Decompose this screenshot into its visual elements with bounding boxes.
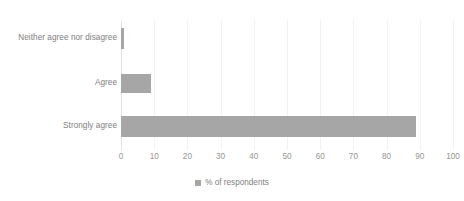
chart-legend: % of respondents bbox=[0, 178, 464, 187]
legend-label: % of respondents bbox=[205, 178, 269, 187]
x-axis-tick-labels: 0102030405060708090100 bbox=[121, 152, 453, 166]
x-tick-label-0: 0 bbox=[119, 152, 124, 161]
category-axis-labels: Neither agree nor disagreeAgreeStrongly … bbox=[0, 20, 117, 150]
x-tick-label-50: 50 bbox=[282, 152, 291, 161]
category-label-0: Neither agree nor disagree bbox=[0, 33, 117, 42]
x-tick-label-40: 40 bbox=[249, 152, 258, 161]
bar-0 bbox=[121, 28, 124, 49]
x-tick-label-20: 20 bbox=[183, 152, 192, 161]
bars-layer bbox=[121, 20, 453, 150]
x-tick-label-80: 80 bbox=[382, 152, 391, 161]
gridline-100 bbox=[453, 20, 454, 150]
x-tick-label-100: 100 bbox=[446, 152, 460, 161]
category-label-2: Strongly agree bbox=[0, 121, 117, 130]
bar-1 bbox=[121, 74, 151, 93]
legend-square-marker-icon bbox=[195, 180, 201, 186]
x-tick-label-60: 60 bbox=[316, 152, 325, 161]
x-tick-label-70: 70 bbox=[349, 152, 358, 161]
category-label-1: Agree bbox=[0, 78, 117, 87]
plot-area bbox=[121, 20, 453, 150]
bar-chart: Neither agree nor disagreeAgreeStrongly … bbox=[0, 0, 464, 201]
bar-2 bbox=[121, 116, 416, 137]
x-tick-label-90: 90 bbox=[415, 152, 424, 161]
x-tick-label-30: 30 bbox=[216, 152, 225, 161]
x-tick-label-10: 10 bbox=[150, 152, 159, 161]
